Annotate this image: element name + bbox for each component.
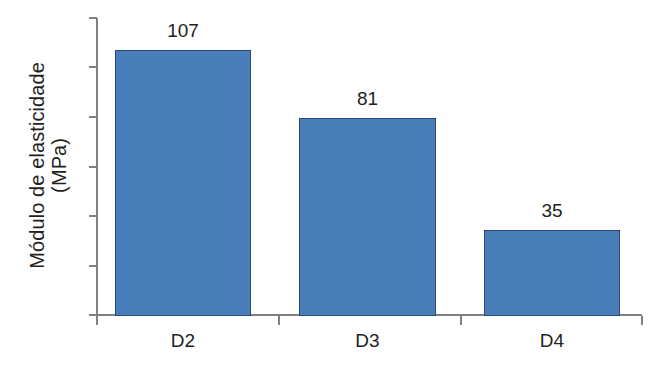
y-axis-tick	[89, 166, 97, 168]
y-axis-tick	[89, 17, 97, 19]
x-axis-tick	[460, 316, 462, 325]
y-axis-tick	[89, 66, 97, 68]
y-axis-title-line-2: (MPa)	[48, 62, 70, 269]
bar-d4	[484, 230, 620, 316]
y-axis-title-line-1: Módulo de elasticidade	[26, 62, 48, 269]
x-axis-tick	[641, 316, 643, 325]
bar-d3	[299, 118, 436, 316]
bar-d2	[115, 50, 251, 316]
y-axis-title: Módulo de elasticidade (MPa)	[0, 0, 96, 330]
value-label-d3: 81	[299, 88, 436, 110]
value-label-d4: 35	[484, 200, 620, 222]
x-axis-tick	[278, 316, 280, 325]
category-label-d3: D3	[299, 330, 436, 352]
value-label-d2: 107	[115, 20, 251, 42]
category-label-d4: D4	[484, 330, 620, 352]
bar-chart: Módulo de elasticidade (MPa) 107 81 35 D…	[0, 0, 668, 370]
y-axis-tick	[89, 215, 97, 217]
x-axis-tick	[96, 316, 98, 325]
y-axis-tick	[89, 116, 97, 118]
y-axis-tick	[89, 265, 97, 267]
category-label-d2: D2	[115, 330, 251, 352]
